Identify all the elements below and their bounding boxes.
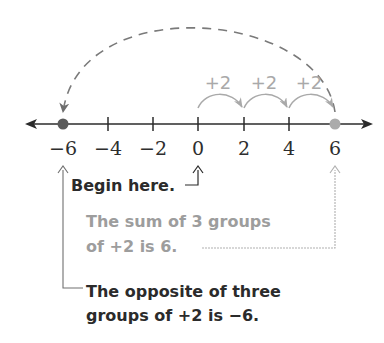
point-positive-six	[330, 119, 341, 130]
sum-arrowhead-icon	[330, 166, 340, 173]
sum-note-line-2: of +2 is 6.	[86, 237, 177, 256]
hop-arrows	[198, 94, 333, 108]
tick-label: −6	[49, 137, 77, 159]
opposite-note-line-2: groups of +2 is −6.	[86, 306, 259, 325]
tick-labels: −6 −4 −2 0 2 4 6	[49, 137, 341, 159]
tick-label: −2	[139, 137, 167, 159]
tick-label: 2	[238, 137, 250, 159]
hop-label: +2	[296, 72, 323, 93]
tick-label: 6	[329, 137, 341, 159]
number-line-diagram: −6 −4 −2 0 2 4 6 +2 +2 +2 Begin here. Th…	[0, 0, 384, 343]
opposite-note-line-1: The opposite of three	[86, 282, 281, 301]
hop-arrow	[289, 94, 333, 108]
sum-note-line-1: The sum of 3 groups	[86, 212, 271, 231]
tick-label: 4	[283, 137, 295, 159]
hop-label: +2	[251, 72, 278, 93]
hop-arrow	[244, 94, 287, 108]
begin-here-label: Begin here.	[71, 176, 175, 195]
tick-label: 0	[192, 137, 204, 159]
sum-connector	[202, 170, 335, 248]
hop-arrow	[198, 94, 242, 108]
hop-label: +2	[205, 72, 232, 93]
hop-labels: +2 +2 +2	[205, 72, 323, 93]
begin-connector	[185, 170, 198, 185]
opposite-dashed-arc	[63, 28, 335, 112]
tick-label: −4	[94, 137, 122, 159]
point-negative-six	[58, 119, 69, 130]
